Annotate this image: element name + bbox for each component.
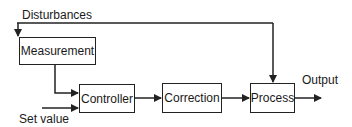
output-label: Output [302,74,338,86]
controller-block: Controller [79,84,135,113]
correction-block: Correction [162,83,222,113]
disturbances-label: Disturbances [22,9,92,21]
measurement-to-controller-arrow [55,65,78,93]
process-block: Process [250,83,295,113]
measurement-block: Measurement [19,37,96,65]
set-value-label: Set value [19,113,69,125]
